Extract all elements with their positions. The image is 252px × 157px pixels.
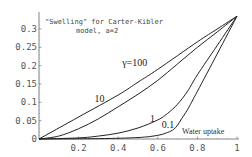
x-tick-label: 0.2 <box>70 143 86 153</box>
curve-label: γ=100 <box>121 57 147 68</box>
x-tick-label: 0.6 <box>150 143 166 153</box>
y-tick-label: 0 <box>32 134 37 144</box>
y-tick-label: 0.3 <box>21 24 37 34</box>
curve-label: 0.1 <box>162 119 175 130</box>
chart-title-line-1: "Swelling" for Carter-Kibler <box>45 18 163 26</box>
curve-γ=1 <box>39 16 237 139</box>
swelling-chart: 00.050.10.150.20.250.30.20.40.60.81 γ=10… <box>0 0 252 157</box>
x-tick-label: 0.8 <box>189 143 205 153</box>
y-tick-label: 0.15 <box>15 79 37 89</box>
curves <box>39 16 237 139</box>
x-tick-label: 0.4 <box>110 143 126 153</box>
curve-γ=0.1 <box>39 16 237 139</box>
x-axis-label: Water uptake <box>182 127 225 136</box>
y-tick-label: 0.2 <box>21 61 37 71</box>
chart-title-line-2: model, a=2 <box>76 27 118 35</box>
curve-labels: γ=1001010.1 <box>94 57 174 130</box>
curve-label: 1 <box>150 113 155 124</box>
y-tick-label: 0.05 <box>15 116 37 126</box>
curve-label: 10 <box>94 93 104 104</box>
curve-γ=100 <box>39 16 237 139</box>
curve-γ=10 <box>39 16 237 139</box>
x-tick-label: 1 <box>234 143 239 153</box>
y-tick-label: 0.1 <box>21 97 37 107</box>
y-tick-label: 0.25 <box>15 42 37 52</box>
